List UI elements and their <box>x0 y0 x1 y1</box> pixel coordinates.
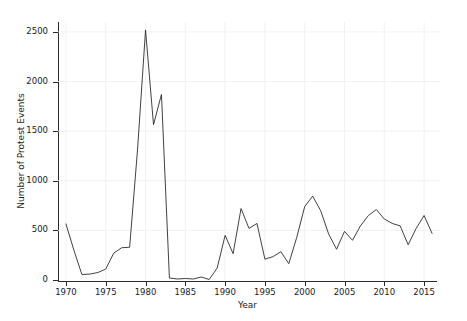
x-axis-tick-label: 2005 <box>334 288 356 297</box>
y-axis-tick-label: 500 <box>32 225 48 234</box>
x-axis-tick <box>66 281 67 286</box>
chart-figure: Number of Protest Events 050010001500200… <box>0 0 467 321</box>
x-axis-tick <box>384 281 385 286</box>
y-axis-tick <box>53 280 58 281</box>
gridlines <box>58 22 440 280</box>
y-axis-tick-label: 2000 <box>26 77 48 86</box>
x-axis-tick-label: 1990 <box>214 288 236 297</box>
x-axis-tick <box>424 281 425 286</box>
x-axis-tick <box>265 281 266 286</box>
x-axis-tick <box>185 281 186 286</box>
x-axis-tick-label: 1975 <box>95 288 117 297</box>
y-axis-tick-label: 1000 <box>26 176 48 185</box>
line-chart-svg <box>58 22 440 280</box>
x-axis-tick-label: 1980 <box>135 288 157 297</box>
y-axis-tick-label: 2500 <box>26 27 48 36</box>
x-axis-tick <box>106 281 107 286</box>
plot-area <box>58 22 440 280</box>
x-axis-tick <box>345 281 346 286</box>
y-axis-title: Number of Protest Events <box>14 22 28 280</box>
protest-events-line <box>66 30 432 280</box>
x-axis-tick-label: 2010 <box>373 288 395 297</box>
x-axis-tick <box>225 281 226 286</box>
x-axis-tick <box>146 281 147 286</box>
y-axis-tick-label: 1500 <box>26 126 48 135</box>
y-axis-tick-label: 0 <box>43 275 48 284</box>
x-axis-tick-label: 1985 <box>175 288 197 297</box>
x-axis-tick-label: 2000 <box>294 288 316 297</box>
x-axis-tick <box>305 281 306 286</box>
x-axis-tick-label: 2015 <box>413 288 435 297</box>
x-axis-line <box>58 281 437 282</box>
x-axis-tick-label: 1995 <box>254 288 276 297</box>
x-axis-title: Year <box>58 300 437 311</box>
x-axis-tick-label: 1970 <box>55 288 77 297</box>
